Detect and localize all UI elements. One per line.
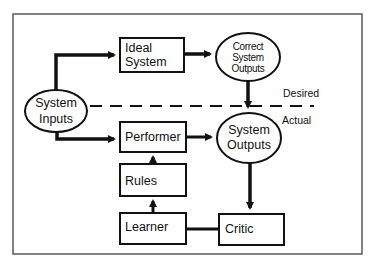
correct-outputs-line3: Outputs: [232, 63, 265, 74]
ideal-system-line2: System: [125, 55, 167, 69]
learner-label: Learner: [125, 220, 168, 234]
node-critic: Critic: [219, 214, 284, 245]
desired-label: Desired: [283, 87, 319, 99]
system-inputs-line2: Inputs: [39, 112, 73, 126]
rules-label: Rules: [125, 174, 157, 188]
diagram-frame: [13, 14, 362, 254]
system-inputs-line1: System: [35, 96, 77, 110]
performer-label: Performer: [125, 130, 181, 144]
correct-outputs-line1: Correct: [233, 41, 264, 52]
node-rules: Rules: [120, 164, 186, 196]
ideal-system-line1: Ideal: [125, 41, 152, 55]
node-performer: Performer: [120, 122, 186, 152]
actual-label: Actual: [282, 114, 311, 126]
node-ideal-system: Ideal System: [120, 38, 184, 72]
node-correct-system-outputs: Correct System Outputs: [216, 33, 280, 81]
node-system-outputs: System Outputs: [217, 113, 281, 163]
learning-system-diagram: Desired Actual System Inputs Ideal Syste…: [0, 0, 372, 266]
system-outputs-line2: Outputs: [227, 138, 271, 152]
correct-outputs-line2: System: [232, 52, 264, 63]
critic-label: Critic: [225, 222, 253, 236]
system-outputs-line1: System: [228, 123, 270, 137]
node-system-inputs: System Inputs: [25, 90, 87, 132]
node-learner: Learner: [120, 213, 186, 244]
